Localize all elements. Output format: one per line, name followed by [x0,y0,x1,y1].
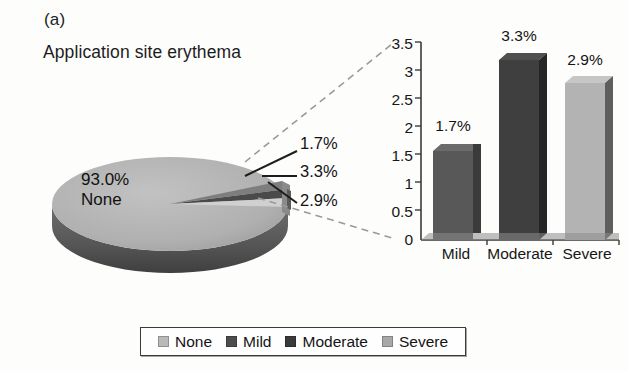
pie-main-label-value: 93.0% [81,170,129,190]
pie-main-label-name: None [81,190,129,210]
legend-item-none: None [158,333,212,351]
legend-swatch-severe-icon [382,336,393,347]
pie-main-label: 93.0% None [81,170,129,210]
legend-item-mild: Mild [226,333,271,351]
figure-root: (a) Application site erythema [0,0,629,371]
legend-swatch-mild-icon [226,336,237,347]
bar-mild [433,144,481,240]
panel-letter: (a) [44,10,65,30]
legend: None Mild Moderate Severe [140,327,466,356]
bar-severe [565,76,613,240]
legend-label-mild: Mild [243,333,271,351]
pie-chart: 93.0% None [48,138,293,273]
legend-label-none: None [175,333,212,351]
bar-value-mild: 1.7% [423,117,483,135]
bar-chart: 3.5 3 2.5 2 1.5 1 0.5 0 [381,33,626,248]
legend-swatch-none-icon [158,336,169,347]
legend-swatch-moderate-icon [285,336,296,347]
bar-chart-xtick-moderate: Moderate [487,245,553,263]
legend-item-moderate: Moderate [285,333,367,351]
figure-title: Application site erythema [43,42,241,63]
bar-chart-xtick-severe: Severe [555,245,619,263]
pie-sliver-shadow [287,189,291,210]
pie-callout-severe: 2.9% [300,191,338,210]
legend-label-moderate: Moderate [302,333,367,351]
bar-value-moderate: 3.3% [489,27,549,45]
pie-callout-mild: 1.7% [300,134,338,153]
bar-chart-xtick-mild: Mild [423,245,489,263]
legend-item-severe: Severe [382,333,448,351]
pie-callout-labels: 1.7% 3.3% 2.9% [300,134,386,234]
pie-callout-moderate: 3.3% [300,162,338,181]
bar-chart-floor [421,233,619,240]
legend-label-severe: Severe [399,333,448,351]
bar-moderate [499,53,547,240]
bar-value-severe: 2.9% [555,51,615,69]
